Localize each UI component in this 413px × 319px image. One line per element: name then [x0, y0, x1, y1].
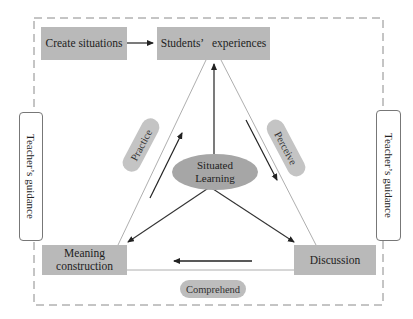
node-students-experiences-label: Students’ experiences: [161, 37, 267, 50]
node-students-experiences: Students’ experiences: [157, 27, 270, 60]
arrow-learning-to-discussion: [210, 187, 294, 242]
teachers-guidance-left-label: Teacher’s guidance: [25, 134, 37, 219]
teachers-guidance-right-label: Teacher’s guidance: [383, 133, 395, 218]
node-meaning-construction-line2: construction: [56, 260, 113, 273]
node-situated-learning: Situated Learning: [172, 154, 258, 190]
node-meaning-construction-line1: Meaning: [56, 247, 113, 260]
node-create-situations-label: Create situations: [46, 37, 123, 50]
node-create-situations: Create situations: [41, 27, 127, 60]
teachers-guidance-right: Teacher’s guidance: [376, 110, 401, 241]
node-situated-learning-line1: Situated: [195, 159, 235, 172]
node-discussion: Discussion: [294, 245, 376, 275]
node-situated-learning-line2: Learning: [195, 172, 235, 185]
node-meaning-construction: Meaning construction: [42, 245, 127, 275]
edge-label-comprehend: Comprehend: [180, 280, 246, 298]
node-discussion-label: Discussion: [310, 254, 360, 267]
arrow-learning-to-meaning: [128, 187, 210, 242]
edge-label-comprehend-text: Comprehend: [186, 284, 240, 295]
teachers-guidance-left: Teacher’s guidance: [19, 112, 43, 241]
